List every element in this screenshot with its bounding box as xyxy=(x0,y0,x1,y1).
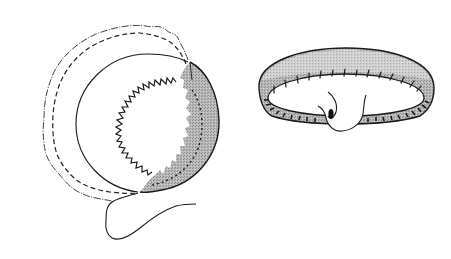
zigzag-opening xyxy=(116,78,176,175)
right-figure-ring xyxy=(259,48,434,131)
illustration-canvas xyxy=(0,0,451,259)
illustration xyxy=(0,0,451,259)
trailing-thread xyxy=(106,193,196,239)
loop-knot xyxy=(328,109,333,119)
left-figure xyxy=(43,25,219,239)
